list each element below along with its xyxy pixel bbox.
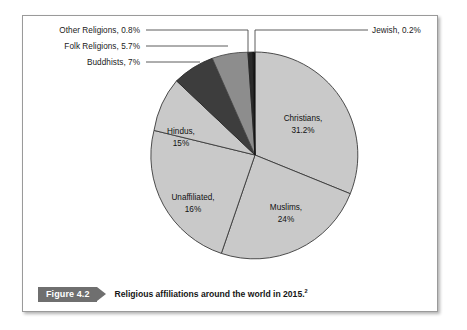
callout-label-jewish: Jewish, 0.2% [372, 26, 462, 35]
slice-label-hindus-name: Hindus, [152, 126, 210, 138]
leader-line-other-religions [146, 30, 248, 54]
pie-slices [151, 52, 358, 259]
figure-caption-footnote-marker: 2 [305, 288, 308, 294]
figure-caption-main: Religious affiliations around the world … [115, 289, 305, 299]
figure-badge-chevron-icon [97, 287, 106, 301]
slice-label-muslims-name: Muslims, [255, 202, 317, 214]
slice-label-hindus: Hindus, 15% [152, 126, 210, 149]
callout-label-other-religions: Other Religions, 0.8% [16, 26, 140, 35]
slice-label-christians: Christians, 31.2% [266, 113, 340, 136]
slice-label-muslims: Muslims, 24% [255, 202, 317, 225]
slice-label-christians-name: Christians, [266, 113, 340, 125]
slice-label-christians-value: 31.2% [266, 125, 340, 137]
figure-number-label: Figure 4.2 [46, 290, 90, 299]
slice-label-unaffiliated-name: Unaffiliated, [150, 192, 236, 204]
slice-label-unaffiliated: Unaffiliated, 16% [150, 192, 236, 215]
figure-root: Other Religions, 0.8% Folk Religions, 5.… [0, 0, 467, 330]
pie-chart: Other Religions, 0.8% Folk Religions, 5.… [0, 0, 467, 330]
figure-number-badge: Figure 4.2 [38, 287, 97, 302]
leader-line-jewish [255, 30, 368, 53]
callout-label-buddhists: Buddhists, 7% [16, 58, 140, 67]
slice-label-unaffiliated-value: 16% [150, 204, 236, 216]
slice-label-hindus-value: 15% [152, 138, 210, 150]
slice-label-muslims-value: 24% [255, 214, 317, 226]
callout-label-folk-religions: Folk Religions, 5.7% [16, 42, 140, 51]
figure-caption-text: Religious affiliations around the world … [115, 289, 308, 299]
figure-caption-row: Figure 4.2 Religious affiliations around… [38, 285, 308, 303]
